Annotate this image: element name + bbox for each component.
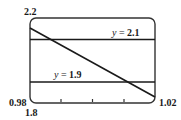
x-max-label: 1.02 [159,97,177,108]
annotation-value: 2.1 [127,27,140,38]
annotation-y-2-1: y = 2.1 [111,27,140,38]
annotation-value: 1.9 [69,69,82,80]
x-ticks [61,99,124,102]
annotation-y-1-9: y = 1.9 [53,69,82,80]
y-max-label: 2.2 [24,6,37,17]
x-min-label: 0.98 [9,97,27,108]
decreasing-line [30,28,155,97]
y-min-label: 1.8 [25,107,38,118]
chart: y = 2.1 y = 1.9 2.2 1.8 0.98 1.02 [0,0,181,120]
